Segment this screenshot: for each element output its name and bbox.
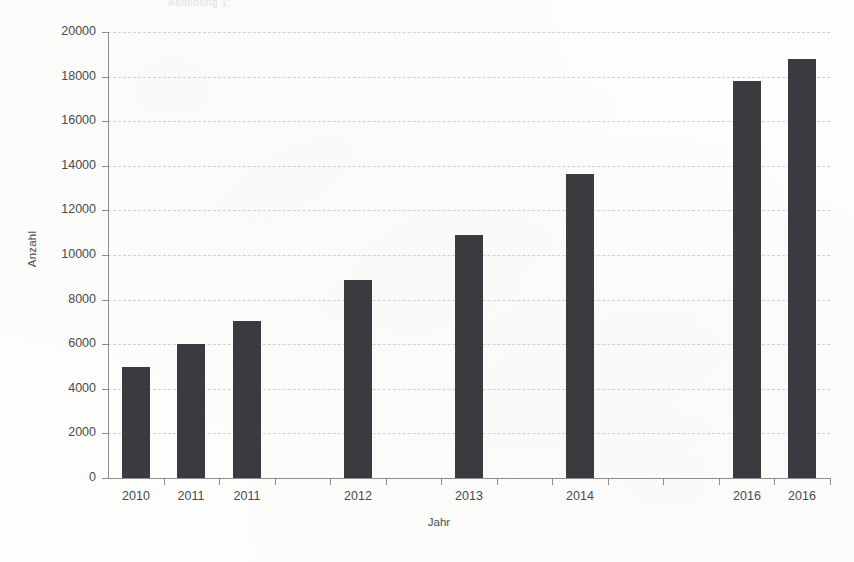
y-axis-tick [102,478,109,479]
y-axis-tick-label: 18000 [36,69,96,83]
chart-page: Abbildung 1: 020004000600080001000012000… [0,0,854,562]
gridline [108,210,830,211]
x-axis-tick-label: 2013 [439,489,499,503]
bar [344,280,372,478]
y-axis-tick [102,344,109,345]
x-axis-tick [219,478,220,485]
y-axis-tick [102,210,109,211]
bar [788,59,816,478]
y-axis-tick-label: 12000 [36,202,96,216]
gridline [108,166,830,167]
y-axis-tick-label: 6000 [36,336,96,350]
bar [233,321,261,478]
bar [122,367,150,479]
y-axis-tick [102,32,109,33]
gridline [108,32,830,33]
x-axis-title: Jahr [379,516,499,528]
x-axis-tick [663,478,664,485]
gridline [108,77,830,78]
y-axis-tick-label: 2000 [36,425,96,439]
x-axis-tick [164,478,165,485]
x-axis-tick [330,478,331,485]
y-axis-tick [102,300,109,301]
bar [455,235,483,478]
bar-chart-plot: 0200040006000800010000120001400016000180… [0,0,854,562]
x-axis-tick [719,478,720,485]
x-axis-tick-label: 2016 [717,489,777,503]
gridline [108,121,830,122]
x-axis-tick [386,478,387,485]
x-axis-tick [552,478,553,485]
y-axis-title: Anzahl [26,214,38,284]
x-axis-tick-label: 2014 [550,489,610,503]
bar [177,344,205,478]
y-axis-tick [102,77,109,78]
x-axis-tick [830,478,831,485]
y-axis-tick-label: 10000 [36,247,96,261]
x-axis-tick-label: 2010 [106,489,166,503]
y-axis-tick [102,433,109,434]
bar [733,81,761,478]
y-axis-tick [102,121,109,122]
x-axis-tick [774,478,775,485]
y-axis-tick-label: 14000 [36,158,96,172]
x-axis-tick-label: 2016 [772,489,832,503]
x-axis-tick-label: 2012 [328,489,388,503]
x-axis-tick-label: 2011 [161,489,221,503]
y-axis-tick-label: 16000 [36,113,96,127]
x-axis-tick-label: 2011 [217,489,277,503]
y-axis-tick-label: 4000 [36,381,96,395]
x-axis-tick [275,478,276,485]
y-axis-tick [102,389,109,390]
y-axis-tick-label: 0 [36,470,96,484]
bar [566,174,594,478]
y-axis-tick-label: 20000 [36,24,96,38]
y-axis-tick [102,255,109,256]
x-axis-tick [441,478,442,485]
x-axis-line [108,478,830,479]
x-axis-tick [608,478,609,485]
x-axis-tick [497,478,498,485]
y-axis-tick [102,166,109,167]
y-axis-tick-label: 8000 [36,292,96,306]
